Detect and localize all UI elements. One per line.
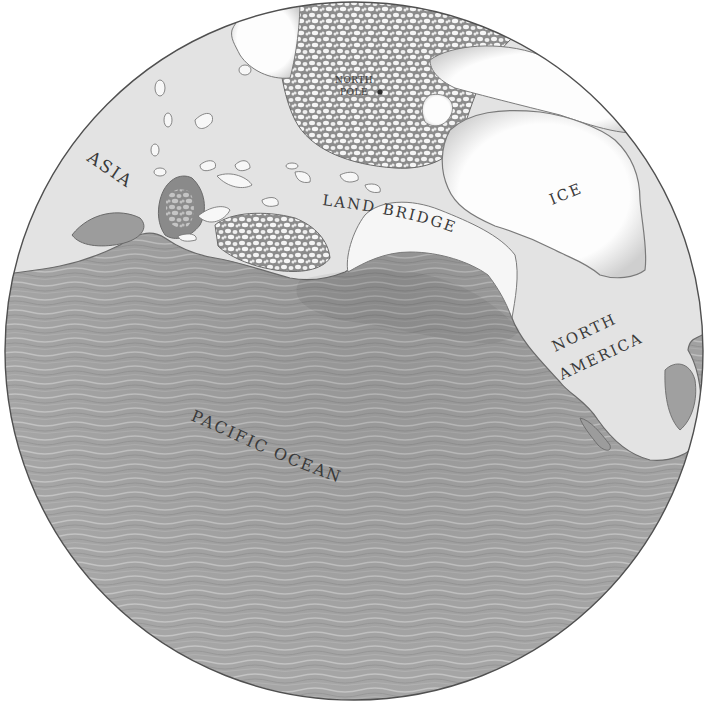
label-north-pole-line1: NORTH bbox=[335, 75, 373, 85]
label-north-pole-line2: POLE bbox=[340, 87, 368, 97]
north-pole-marker bbox=[377, 89, 382, 94]
map-canvas: NORTH POLE ASIA LAND BRIDGE ICE NORTH AM… bbox=[0, 0, 708, 701]
globe-map: NORTH POLE ASIA LAND BRIDGE ICE NORTH AM… bbox=[0, 0, 708, 701]
